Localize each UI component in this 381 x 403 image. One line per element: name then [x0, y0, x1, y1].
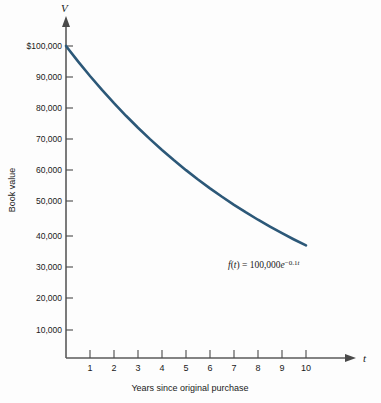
x-tick-label-2: 2	[111, 363, 116, 373]
x-tick-label-3: 3	[135, 363, 140, 373]
x-tick-label-9: 9	[279, 363, 284, 373]
x-tick-label-1: 1	[87, 363, 92, 373]
y-tick-label-50000: 50,000	[36, 196, 62, 206]
formula-equals: =	[240, 260, 250, 270]
x-tick-label-5: 5	[183, 363, 188, 373]
x-tick-label-8: 8	[255, 363, 260, 373]
x-axis-ticks	[90, 350, 306, 358]
y-axis-symbol: V	[61, 2, 69, 14]
formula-annotation: f(t) = 100,000e−0.1t	[228, 259, 301, 272]
x-axis-arrowhead	[345, 354, 356, 362]
x-tick-label-6: 6	[207, 363, 212, 373]
y-tick-label-10000: 10,000	[36, 325, 62, 335]
y-tick-label-90000: 90,000	[36, 72, 62, 82]
x-tick-label-4: 4	[159, 363, 164, 373]
y-axis-ticks	[66, 46, 73, 330]
book-value-depreciation-figure: V t $100,000 90,000 80,000 70,000 60,000…	[0, 0, 381, 403]
y-tick-label-20000: 20,000	[36, 293, 62, 303]
y-axis-tick-labels: $100,000 90,000 80,000 70,000 60,000 50,…	[27, 41, 63, 335]
exponential-decay-chart: V t $100,000 90,000 80,000 70,000 60,000…	[0, 0, 381, 403]
y-axis-caption: Book value	[7, 168, 17, 213]
y-tick-label-70000: 70,000	[36, 134, 62, 144]
y-axis-arrowhead	[62, 16, 70, 27]
x-axis-caption: Years since original purchase	[131, 383, 248, 393]
formula-coefficient: 100,000	[250, 260, 281, 270]
formula-exponent-variable: t	[298, 259, 301, 267]
y-tick-label-100000: $100,000	[27, 41, 63, 51]
y-tick-label-60000: 60,000	[36, 165, 62, 175]
y-tick-label-30000: 30,000	[36, 262, 62, 272]
exponential-decay-curve	[66, 46, 306, 245]
x-axis-tick-labels: 1 2 3 4 5 6 7 8 9 10	[87, 363, 311, 373]
y-tick-label-40000: 40,000	[36, 231, 62, 241]
x-tick-label-10: 10	[301, 363, 311, 373]
y-tick-label-80000: 80,000	[36, 103, 62, 113]
x-tick-label-7: 7	[231, 363, 236, 373]
x-axis-symbol: t	[363, 352, 367, 364]
